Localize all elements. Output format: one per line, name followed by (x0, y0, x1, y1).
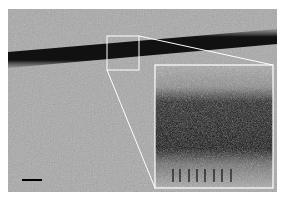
micrograph-image (8, 9, 277, 192)
inset-magnified (155, 65, 273, 188)
